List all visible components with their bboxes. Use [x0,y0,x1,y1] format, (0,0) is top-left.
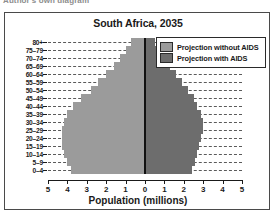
bar-without-aids [64,150,145,157]
x-axis-tick-label: 2 [182,185,186,194]
y-axis-tick [43,66,47,67]
y-axis-tick [43,82,47,83]
bar-without-aids [62,134,145,141]
y-axis-tick [43,154,47,155]
legend-swatch-with-aids [160,53,173,63]
legend: Projection without AIDS Projection with … [156,37,266,68]
bar-with-aids [145,158,195,165]
source-caption-text: Author's own diagram [3,0,89,5]
x-axis-tick [203,180,204,184]
x-axis-tick-label: 2 [104,185,108,194]
bar-with-aids [145,102,197,109]
x-axis-tick-label: 3 [201,185,205,194]
legend-swatch-without-aids [160,42,173,52]
y-axis-tick-label: 70–74 [26,55,43,62]
y-axis-tick-label: 30–34 [26,119,43,126]
bar-without-aids [120,54,145,61]
bar-with-aids [145,110,201,117]
y-axis-tick [43,138,47,139]
x-axis-tick-label: 4 [65,185,69,194]
y-axis-tick [43,90,47,91]
bar-without-aids [62,142,145,149]
y-axis-tick-label: 15–19 [26,143,43,150]
bar-with-aids [145,78,182,85]
y-axis-tick [43,42,47,43]
x-axis-tick [48,180,49,184]
y-axis-tick-label: 75–79 [26,47,43,54]
bar-with-aids [145,126,203,133]
bar-without-aids [67,110,145,117]
x-axis-tick [87,180,88,184]
bar-with-aids [145,150,197,157]
legend-item: Projection with AIDS [160,53,262,63]
y-axis-labels: 80+75–7970–7465–6960–6455–5950–5445–4940… [7,38,47,174]
y-axis-tick-label: 10–14 [26,151,43,158]
y-axis-tick-label: 50–54 [26,87,43,94]
x-axis-tick-label: 5 [46,185,50,194]
x-axis-tick-label: 4 [220,185,224,194]
source-caption: Author's own diagram [0,0,277,11]
y-axis-tick [43,130,47,131]
x-axis-tick-label: 0 [143,185,147,194]
y-axis-tick-label: 55–59 [26,79,43,86]
x-axis-tick [126,180,127,184]
y-axis-tick [43,98,47,99]
bar-with-aids [145,38,155,45]
y-axis-tick-label: 20–24 [26,135,43,142]
y-axis-tick-label: 5–9 [33,159,43,166]
bar-with-aids [145,142,199,149]
x-axis-tick [164,180,165,184]
bar-with-aids [145,118,203,125]
legend-label-without-aids: Projection without AIDS [177,43,259,52]
y-axis-tick [43,122,47,123]
y-axis-tick-label: 0–4 [33,167,43,174]
bar-without-aids [62,126,145,133]
bar-with-aids [145,166,192,173]
x-axis-tick [184,180,185,184]
bar-without-aids [71,166,145,173]
y-axis-tick [43,146,47,147]
bar-with-aids [145,70,176,77]
x-axis-tick [242,180,243,184]
y-axis-tick-label: 45–49 [26,95,43,102]
y-axis-tick-label: 40–44 [26,103,43,110]
y-axis-tick-label: 80+ [32,39,43,46]
bar-with-aids [145,134,201,141]
bar-without-aids [98,78,145,85]
bar-without-aids [114,62,145,69]
x-axis-title: Population (millions) [5,195,271,206]
x-axis-tick-label: 1 [162,185,166,194]
x-axis-tick [106,180,107,184]
y-axis-tick [43,50,47,51]
figure-frame: South Africa, 2035 80+75–7970–7465–6960–… [4,12,270,210]
legend-label-with-aids: Projection with AIDS [177,54,247,63]
bar-without-aids [81,94,145,101]
bar-without-aids [67,158,145,165]
bar-without-aids [91,86,145,93]
y-axis-tick [43,170,47,171]
bar-with-aids [145,86,188,93]
bar-without-aids [126,46,145,53]
legend-item: Projection without AIDS [160,42,262,52]
bar-without-aids [64,118,145,125]
bar-with-aids [145,94,194,101]
y-axis-tick [43,162,47,163]
y-axis-tick [43,114,47,115]
y-axis-tick-label: 65–69 [26,63,43,70]
y-axis-tick [43,74,47,75]
x-axis-tick [67,180,68,184]
y-axis-tick-label: 25–29 [26,127,43,134]
bar-without-aids [131,38,145,45]
x-axis-tick-label: 5 [240,185,244,194]
x-axis-tick-label: 1 [123,185,127,194]
bar-without-aids [106,70,145,77]
x-axis-tick-label: 3 [85,185,89,194]
chart-title: South Africa, 2035 [5,17,271,29]
x-axis-tick [145,180,146,184]
x-axis-tick [223,180,224,184]
y-axis-tick-label: 60–64 [26,71,43,78]
y-axis-tick-label: 35–39 [26,111,43,118]
bar-without-aids [73,102,145,109]
y-axis-tick [43,58,47,59]
y-axis-tick [43,106,47,107]
